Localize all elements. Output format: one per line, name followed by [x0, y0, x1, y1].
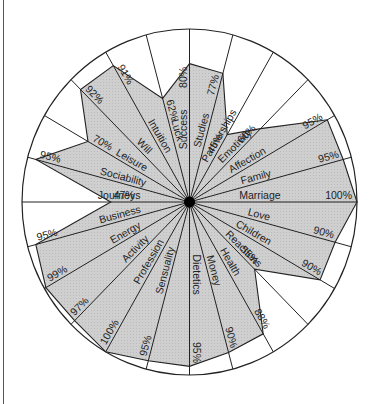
value-label-success: 80% — [177, 67, 189, 88]
value-label-dietetics: 95% — [191, 342, 203, 363]
value-label-journeys: 47% — [114, 189, 135, 201]
radar-chart: Success80%Studies77%Partnerships45%Emoti… — [0, 0, 370, 404]
category-label-marriage: Marriage — [239, 189, 281, 201]
category-label-dietetics: Dietetics — [191, 255, 203, 295]
value-label-marriage: 100% — [325, 189, 352, 201]
center-hub — [184, 197, 195, 208]
